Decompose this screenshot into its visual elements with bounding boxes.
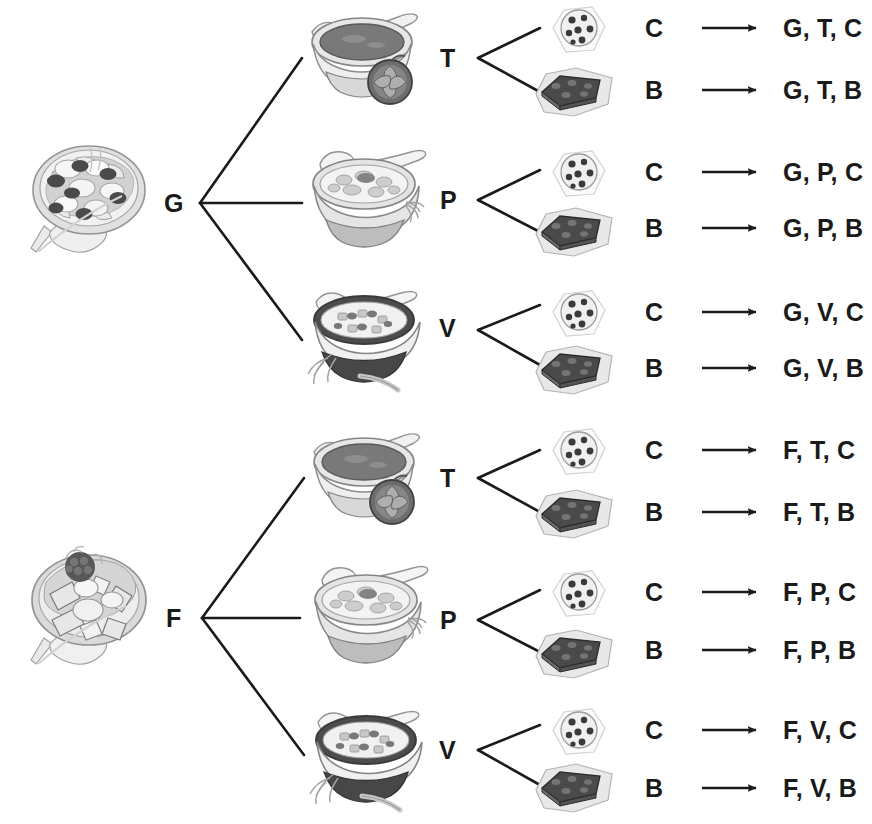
brownie-icon [532,66,618,118]
outcome-label: G, P, C [783,160,863,185]
outcome-label: G, T, B [783,78,862,103]
potato-soup-bowl-icon [304,556,432,674]
node-label-dessert-C: C [645,16,663,41]
outcome-label: F, V, C [783,718,857,743]
node-label-salad-F: F [166,606,181,631]
node-label-dessert-C: C [645,300,663,325]
node-label-salad-G: G [164,191,183,216]
brownie-icon [532,762,618,814]
outcome-label: G, P, B [783,216,863,241]
tree-diagram: G F T P V T P V C B C B C B C B C B C B … [0,0,872,824]
cookie-icon [548,424,610,480]
node-label-dessert-B: B [645,500,663,525]
brownie-icon [532,628,618,680]
tomato-soup-bowl-icon [302,4,430,116]
brownie-icon [532,488,618,540]
node-label-dessert-B: B [645,216,663,241]
node-label-soup-V: V [439,316,456,341]
outcome-label: G, V, B [783,356,864,381]
vegetable-soup-bowl-icon [304,700,432,812]
node-label-dessert-C: C [645,160,663,185]
outcome-label: G, T, C [783,16,862,41]
outcome-label: F, P, C [783,580,856,605]
outcome-label: F, T, B [783,500,855,525]
node-label-dessert-B: B [645,78,663,103]
garden-salad-plate-icon [22,136,162,262]
vegetable-soup-bowl-icon [302,280,430,392]
cookie-icon [548,2,610,58]
node-label-dessert-B: B [645,776,663,801]
tomato-soup-bowl-icon [304,424,432,536]
node-label-dessert-B: B [645,356,663,381]
node-label-soup-T: T [440,466,455,491]
node-label-dessert-C: C [645,718,663,743]
outcome-label: F, P, B [783,638,856,663]
node-label-dessert-C: C [645,580,663,605]
brownie-icon [532,206,618,258]
fruit-salad-plate-icon [22,542,162,670]
cookie-icon [548,566,610,622]
node-label-dessert-C: C [645,438,663,463]
brownie-icon [532,344,618,396]
node-label-soup-V: V [439,738,456,763]
cookie-icon [548,286,610,342]
cookie-icon [548,146,610,202]
outcome-label: F, V, B [783,776,857,801]
potato-soup-bowl-icon [302,140,430,258]
cookie-icon [548,704,610,760]
node-label-soup-T: T [440,46,455,71]
node-label-soup-P: P [440,188,457,213]
node-label-soup-P: P [440,608,457,633]
outcome-label: F, T, C [783,438,855,463]
node-label-dessert-B: B [645,638,663,663]
outcome-label: G, V, C [783,300,864,325]
